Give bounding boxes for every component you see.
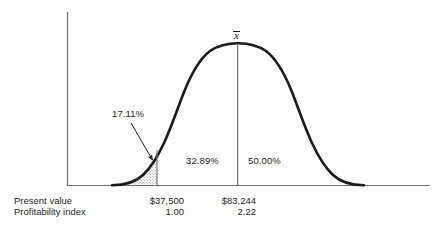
row-label-profitability-index: Profitability index [14, 206, 86, 217]
tail-percent-label: 17.11% [112, 108, 144, 119]
normal-distribution-figure: x 17.11% 32.89% 50.00% Present value $37… [0, 0, 439, 230]
present-value-cutoff-cell: $37,500 [128, 195, 184, 206]
profitability-index-mean-cell: 2.22 [200, 206, 256, 217]
present-value-mean-cell: $83,244 [200, 195, 256, 206]
xbar-overbar [233, 31, 240, 32]
row-label-present-value: Present value [14, 195, 72, 206]
profitability-index-cutoff-cell: 1.00 [128, 206, 184, 217]
mean-symbol-xbar: x [233, 29, 240, 41]
right-percent-label: 50.00% [248, 155, 281, 166]
middle-percent-label: 32.89% [186, 155, 219, 166]
tail-callout-arrow [131, 123, 153, 160]
